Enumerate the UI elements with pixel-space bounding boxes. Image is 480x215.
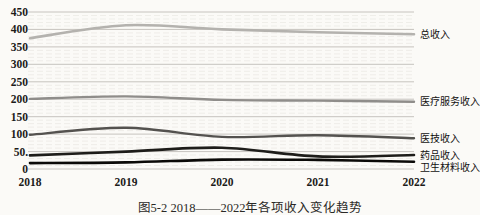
y-axis-tick-label: 300: [2, 58, 28, 70]
y-axis-tick-label: 100: [2, 128, 28, 140]
series-label: 医技收入: [420, 133, 460, 144]
series-label: 卫生材料收入: [420, 162, 480, 173]
x-axis-year-label: 2020: [200, 176, 244, 188]
x-axis-year-label: 2022: [392, 176, 436, 188]
y-axis-tick-label: 250: [2, 76, 28, 88]
x-axis-year-label: 2021: [296, 176, 340, 188]
y-axis-tick-label: 0: [2, 163, 28, 175]
series-line-4: [30, 159, 414, 163]
x-axis-year-label: 2018: [8, 176, 52, 188]
series-label: 总收入: [420, 29, 450, 40]
y-axis-tick-label: 200: [2, 93, 28, 105]
y-axis-tick-label: 50.: [2, 146, 28, 158]
series-label: 医疗服务收入: [420, 96, 480, 107]
x-axis-year-label: 2019: [104, 176, 148, 188]
series-line-3: [30, 148, 414, 157]
figure-caption: 图5-2 2018——2022年各项收入变化趋势: [138, 202, 363, 215]
y-axis-tick-label: 350: [2, 41, 28, 53]
series-label: 药品收入: [420, 150, 460, 161]
y-axis-tick-label: 450: [2, 6, 28, 18]
y-axis-tick-label: 400: [2, 23, 28, 35]
series-line-2: [30, 128, 414, 139]
y-axis-tick-label: 150: [2, 111, 28, 123]
